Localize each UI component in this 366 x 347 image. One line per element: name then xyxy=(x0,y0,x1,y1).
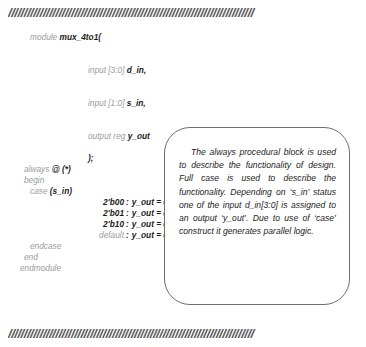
keyword-module: module xyxy=(30,32,57,42)
bottom-slash-divider: ////////////////////////////////////////… xyxy=(8,327,348,341)
keyword-endmodule: endmodule xyxy=(20,263,61,273)
keyword-begin: begin xyxy=(24,175,44,185)
case-label: 2'b00 xyxy=(40,197,126,208)
keyword-always: always xyxy=(24,164,49,174)
code-spacer xyxy=(0,87,230,98)
port-name-d-in: d_in, xyxy=(127,65,146,75)
keyword-endcase: endcase xyxy=(30,241,61,251)
keyword-end: end xyxy=(24,252,38,262)
keyword-input-s: input [1:0] xyxy=(88,98,124,108)
annotation-note-text: The always procedural block is used to d… xyxy=(179,146,336,238)
keyword-case: case xyxy=(30,186,48,196)
top-slash-divider: ////////////////////////////////////////… xyxy=(8,6,348,20)
sensitivity-list: @ (*) xyxy=(52,164,71,174)
annotation-note-box: The always procedural block is used to d… xyxy=(164,127,350,305)
case-label-default: default xyxy=(40,230,126,241)
case-label: 2'b10 xyxy=(40,219,126,230)
case-label: 2'b01 xyxy=(40,208,126,219)
code-spacer xyxy=(0,43,230,54)
port-name-s-in: s_in, xyxy=(127,98,146,108)
close-paren-token: ); xyxy=(88,153,94,163)
keyword-output-reg: output reg xyxy=(88,131,125,141)
case-expression: (s_in) xyxy=(50,186,72,196)
code-line-module-decl: module mux_4to1( xyxy=(0,32,230,43)
port-name-y-out: y_out xyxy=(128,131,150,141)
code-line-port-d-in: input [3:0] d_in, xyxy=(0,65,230,76)
code-spacer xyxy=(0,54,230,65)
module-name: mux_4to1( xyxy=(60,32,102,42)
code-line-port-s-in: input [1:0] s_in, xyxy=(0,98,230,109)
keyword-input-d: input [3:0] xyxy=(88,65,124,75)
code-spacer xyxy=(0,76,230,87)
code-spacer xyxy=(0,109,230,120)
